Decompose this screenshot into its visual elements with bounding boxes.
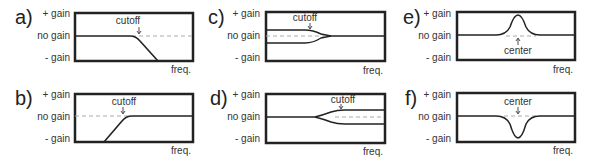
cutoff-label: cutoff (116, 15, 140, 26)
y-label-minus-gain: - gain (391, 52, 451, 63)
plot-low-shelf: cutoff (265, 11, 386, 62)
x-label-freq: freq. (363, 146, 383, 157)
y-label-plus-gain: + gain (391, 89, 451, 100)
x-label-freq: freq. (553, 145, 573, 156)
cutoff-label: cutoff (112, 96, 136, 107)
y-label-plus-gain: + gain (391, 8, 451, 19)
y-label-plus-gain: + gain (10, 89, 70, 100)
x-label-freq: freq. (553, 64, 573, 75)
plot-peak-cut: center (456, 92, 576, 143)
plot-high-shelf: cutoff (265, 93, 386, 144)
center-label: center (504, 45, 532, 56)
y-label-minus-gain: - gain (391, 133, 451, 144)
y-label-minus-gain: - gain (200, 133, 260, 144)
y-label-minus-gain: - gain (10, 133, 70, 144)
cutoff-label: cutoff (293, 12, 317, 23)
plot-low-pass: cutoff (74, 12, 194, 62)
y-label-plus-gain: + gain (200, 8, 260, 19)
y-label-no-gain: no gain (391, 111, 451, 122)
y-label-plus-gain: + gain (10, 8, 70, 19)
y-label-minus-gain: - gain (200, 52, 260, 63)
y-label-no-gain: no gain (10, 111, 70, 122)
y-label-no-gain: no gain (10, 30, 70, 41)
cutoff-label: cutoff (331, 94, 355, 105)
y-label-plus-gain: + gain (200, 89, 260, 100)
y-label-no-gain: no gain (391, 30, 451, 41)
x-label-freq: freq. (171, 145, 191, 156)
plot-high-pass: cutoff (74, 93, 194, 143)
plot-peak-boost: center (456, 11, 576, 61)
y-label-minus-gain: - gain (10, 52, 70, 63)
x-label-freq: freq. (171, 64, 191, 75)
x-label-freq: freq. (363, 65, 383, 76)
y-label-no-gain: no gain (200, 111, 260, 122)
y-label-no-gain: no gain (200, 30, 260, 41)
center-label: center (504, 96, 532, 107)
